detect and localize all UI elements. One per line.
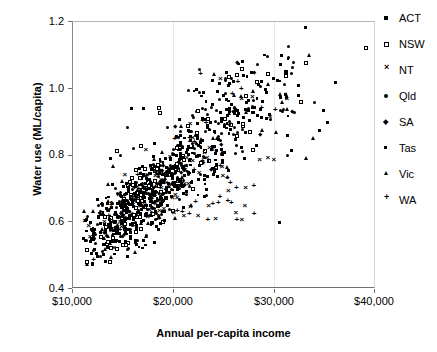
- x-tick-label-20000: $20,000: [133, 296, 213, 307]
- plot-area: +++××+××××++++××××+×××××+××+++×++×××+×××…: [72, 21, 375, 288]
- x-tick-label-10000: $10,000: [32, 296, 112, 307]
- x-tick-mark-20000: [173, 289, 174, 293]
- x-tick-mark-40000: [374, 289, 375, 293]
- legend-label: Tas: [399, 143, 416, 154]
- filled-triangle-icon: [383, 168, 395, 180]
- y-tick-label-0-4: 0.4: [24, 283, 64, 294]
- x-tick-mark-30000: [274, 289, 275, 293]
- x-tick-mark-10000: [72, 289, 73, 293]
- legend-label: Qld: [399, 91, 416, 102]
- scatter-chart-figure: Water use (ML/capita) 1.2 1.0 0.8 0.6 0.…: [0, 0, 437, 352]
- y-tick-label-1-2: 1.2: [24, 16, 64, 27]
- x-cross-icon: ×: [383, 64, 395, 76]
- y-axis-title: Water use (ML/capita): [31, 39, 43, 239]
- plus-cross-icon: +: [383, 194, 395, 206]
- y-tick-label-0-8: 0.8: [24, 149, 64, 160]
- y-tick-label-1-0: 1.0: [24, 83, 64, 94]
- legend-label: NSW: [399, 39, 425, 50]
- legend-label: WA: [399, 195, 416, 206]
- legend-item-tas[interactable]: Tas: [383, 142, 437, 168]
- data-point-layer: +++××+××××++++××××+×××××+××+++×++×××+×××…: [73, 22, 374, 287]
- legend-label: NT: [399, 65, 414, 76]
- legend-label: ACT: [399, 13, 421, 24]
- legend-item-act[interactable]: ACT: [383, 12, 437, 38]
- legend-label: SA: [399, 117, 414, 128]
- legend-item-qld[interactable]: Qld: [383, 90, 437, 116]
- filled-square-icon: [383, 12, 395, 24]
- open-square-icon: [383, 38, 395, 50]
- legend-label: Vic: [399, 169, 414, 180]
- x-tick-label-40000: $40,000: [334, 296, 414, 307]
- legend-item-vic[interactable]: Vic: [383, 168, 437, 194]
- x-axis-title: Annual per-capita income: [72, 327, 375, 339]
- legend-item-nt[interactable]: × NT: [383, 64, 437, 90]
- x-tick-label-30000: $30,000: [234, 296, 314, 307]
- legend-item-sa[interactable]: SA: [383, 116, 437, 142]
- legend-item-wa[interactable]: + WA: [383, 194, 437, 220]
- diamond-icon: [383, 116, 395, 128]
- legend: ACT NSW × NT Qld SA Tas Vic + WA: [383, 12, 437, 220]
- legend-item-nsw[interactable]: NSW: [383, 38, 437, 64]
- y-tick-label-0-6: 0.6: [24, 216, 64, 227]
- small-filled-square-icon: [383, 142, 395, 154]
- filled-circle-icon: [383, 90, 395, 102]
